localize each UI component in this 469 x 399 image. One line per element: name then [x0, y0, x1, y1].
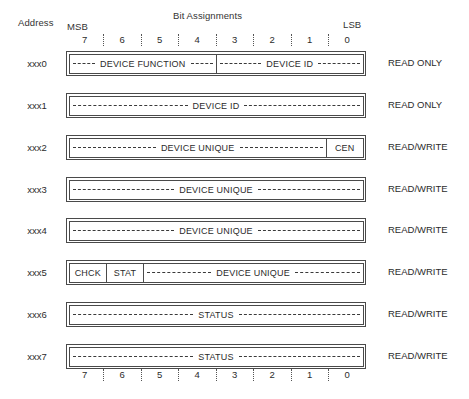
register-access-xxx3: READ/WRITE — [388, 183, 448, 194]
register-address-xxx1: xxx1 — [14, 100, 60, 111]
leader-dash-right — [191, 63, 214, 64]
leader-dash-right — [244, 105, 359, 106]
register-access-xxx2: READ/WRITE — [388, 141, 448, 152]
register-field-label: DEVICE ID — [188, 101, 245, 111]
leader-dash-left — [73, 63, 96, 64]
register-frame-xxx1: DEVICE ID — [66, 93, 366, 118]
register-row-xxx3: xxx3DEVICE UNIQUEREAD/WRITE — [0, 176, 469, 204]
register-address-xxx3: xxx3 — [14, 184, 60, 195]
register-fields-xxx5: CHCKSTATDEVICE UNIQUE — [69, 263, 364, 283]
leader-dash-right — [258, 189, 360, 190]
bit-label-top-bit-4: 4 — [179, 33, 217, 47]
register-field-xxx0-device-id: DEVICE ID — [216, 55, 363, 73]
register-field-xxx0-device-function: DEVICE FUNCTION — [70, 55, 217, 73]
register-field-xxx5-chck: CHCK — [70, 264, 107, 282]
register-address-xxx4: xxx4 — [14, 225, 60, 236]
register-fields-xxx2: DEVICE UNIQUECEN — [69, 138, 364, 158]
register-field-label: DEVICE UNIQUE — [211, 268, 295, 278]
register-fields-xxx6: STATUS — [69, 305, 364, 325]
leader-dash-left — [73, 356, 194, 357]
address-column-header: Address — [18, 17, 54, 28]
register-frame-xxx0: DEVICE FUNCTIONDEVICE ID — [66, 51, 366, 76]
register-row-xxx0: xxx0DEVICE FUNCTIONDEVICE IDREAD ONLY — [0, 50, 469, 78]
register-field-label: DEVICE ID — [261, 59, 318, 69]
register-row-xxx2: xxx2DEVICE UNIQUECENREAD/WRITE — [0, 134, 469, 162]
register-row-xxx4: xxx4DEVICE UNIQUEREAD/WRITE — [0, 217, 469, 245]
register-field-xxx4-device-unique: DEVICE UNIQUE — [70, 222, 363, 240]
msb-label: MSB — [67, 21, 88, 32]
bit-scale-bottom: 76543210 — [66, 368, 366, 382]
register-fields-xxx4: DEVICE UNIQUE — [69, 221, 364, 241]
leader-dash-left — [73, 147, 156, 148]
leader-dash-right — [258, 230, 360, 231]
register-frame-xxx5: CHCKSTATDEVICE UNIQUE — [66, 260, 366, 285]
leader-dash-left — [73, 314, 194, 315]
register-field-label: STATUS — [193, 310, 238, 320]
register-field-label: STATUS — [193, 352, 238, 362]
bit-label-top-bit-0: 0 — [329, 33, 367, 47]
bit-label-top-bit-5: 5 — [141, 33, 179, 47]
register-row-xxx7: xxx7STATUSREAD/WRITE — [0, 343, 469, 371]
register-access-xxx6: READ/WRITE — [388, 308, 448, 319]
register-frame-xxx6: STATUS — [66, 302, 366, 327]
register-fields-xxx0: DEVICE FUNCTIONDEVICE ID — [69, 54, 364, 74]
register-row-xxx5: xxx5CHCKSTATDEVICE UNIQUEREAD/WRITE — [0, 259, 469, 287]
register-access-xxx5: READ/WRITE — [388, 266, 448, 277]
register-frame-xxx3: DEVICE UNIQUE — [66, 177, 366, 202]
bit-label-bottom-bit-4: 4 — [179, 368, 217, 382]
register-field-xxx5-device-unique: DEVICE UNIQUE — [143, 264, 363, 282]
register-address-xxx5: xxx5 — [14, 267, 60, 278]
register-access-xxx7: READ/WRITE — [388, 350, 448, 361]
leader-dash-left — [73, 189, 175, 190]
register-fields-xxx1: DEVICE ID — [69, 96, 364, 116]
register-frame-xxx2: DEVICE UNIQUECEN — [66, 135, 366, 160]
register-field-xxx2-device-unique: DEVICE UNIQUE — [70, 139, 326, 157]
register-fields-xxx3: DEVICE UNIQUE — [69, 180, 364, 200]
register-field-label: DEVICE UNIQUE — [156, 143, 240, 153]
register-fields-xxx7: STATUS — [69, 347, 364, 367]
bit-label-bottom-bit-3: 3 — [216, 368, 254, 382]
register-address-xxx0: xxx0 — [14, 58, 60, 69]
register-field-label: DEVICE FUNCTION — [95, 59, 191, 69]
register-frame-xxx7: STATUS — [66, 344, 366, 369]
register-field-label: STAT — [114, 268, 136, 278]
leader-dash-left — [73, 230, 175, 231]
bit-label-top-bit-3: 3 — [216, 33, 254, 47]
bit-label-top-bit-6: 6 — [104, 33, 142, 47]
leader-dash-left — [147, 272, 212, 273]
register-field-xxx5-stat: STAT — [106, 264, 143, 282]
register-address-xxx6: xxx6 — [14, 309, 60, 320]
leader-dash-right — [239, 314, 360, 315]
bit-label-bottom-bit-2: 2 — [254, 368, 292, 382]
register-row-xxx1: xxx1DEVICE IDREAD ONLY — [0, 92, 469, 120]
leader-dash-right — [295, 272, 360, 273]
bit-label-bottom-bit-7: 7 — [66, 368, 104, 382]
register-access-xxx0: READ ONLY — [388, 57, 442, 68]
bit-scale-top: 76543210 — [66, 33, 366, 47]
leader-dash-left — [73, 105, 188, 106]
register-field-xxx3-device-unique: DEVICE UNIQUE — [70, 181, 363, 199]
bit-label-bottom-bit-0: 0 — [329, 368, 367, 382]
lsb-label: LSB — [343, 19, 361, 30]
register-access-xxx1: READ ONLY — [388, 99, 442, 110]
register-field-xxx2-cen: CEN — [326, 139, 363, 157]
register-field-label: CHCK — [75, 268, 101, 278]
bit-label-top-bit-1: 1 — [291, 33, 329, 47]
bit-assignments-title: Bit Assignments — [173, 10, 242, 21]
leader-dash-right — [239, 356, 360, 357]
leader-dash-right — [318, 63, 359, 64]
register-field-xxx6-status: STATUS — [70, 306, 363, 324]
bit-label-bottom-bit-6: 6 — [104, 368, 142, 382]
leader-dash-right — [240, 147, 323, 148]
bit-label-bottom-bit-5: 5 — [141, 368, 179, 382]
register-address-xxx7: xxx7 — [14, 351, 60, 362]
register-frame-xxx4: DEVICE UNIQUE — [66, 218, 366, 243]
register-address-xxx2: xxx2 — [14, 142, 60, 153]
register-field-label: CEN — [335, 143, 355, 153]
bit-label-bottom-bit-1: 1 — [291, 368, 329, 382]
register-field-label: DEVICE UNIQUE — [174, 226, 258, 236]
register-field-label: DEVICE UNIQUE — [174, 185, 258, 195]
register-access-xxx4: READ/WRITE — [388, 224, 448, 235]
register-row-xxx6: xxx6STATUSREAD/WRITE — [0, 301, 469, 329]
bit-label-top-bit-7: 7 — [66, 33, 104, 47]
